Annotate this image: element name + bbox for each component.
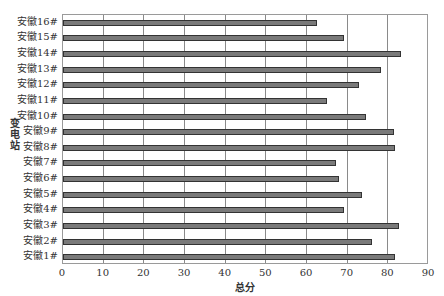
bar	[63, 192, 362, 198]
bar	[63, 129, 394, 135]
x-axis-tick-label: 80	[381, 268, 394, 278]
x-axis-tick-label: 60	[300, 268, 313, 278]
y-axis-category-label: 安徽7#	[23, 157, 58, 167]
y-axis-category-label: 安徽11#	[17, 95, 58, 105]
y-axis-category-label: 安徽8#	[23, 142, 58, 152]
y-axis-category-label: 安徽9#	[23, 126, 58, 136]
bar	[63, 114, 366, 120]
x-axis-tick-label: 0	[59, 268, 65, 278]
x-axis-tick-label: 20	[137, 268, 150, 278]
y-axis-category-label: 安徽1#	[23, 251, 58, 261]
x-axis-tick-label: 40	[218, 268, 231, 278]
x-axis-tick-label: 30	[178, 268, 191, 278]
y-axis-category-label: 安徽5#	[23, 189, 58, 199]
x-axis-tick-label: 10	[96, 268, 109, 278]
bar	[63, 160, 336, 166]
bar	[63, 20, 317, 26]
y-axis-category-label: 安徽16#	[17, 17, 58, 27]
y-axis-category-label: 安徽14#	[17, 48, 58, 58]
y-axis-category-label: 安徽6#	[23, 173, 58, 183]
bar	[63, 98, 327, 104]
y-axis-category-label: 安徽2#	[23, 236, 58, 246]
y-axis-category-label: 安徽4#	[23, 204, 58, 214]
x-axis-title: 总分	[235, 279, 255, 294]
x-axis-tick-label: 90	[422, 268, 435, 278]
bar-chart: 变电站 安徽1#安徽2#安徽3#安徽4#安徽5#安徽6#安徽7#安徽8#安徽9#…	[0, 0, 444, 296]
bar	[63, 254, 395, 260]
y-axis-category-label: 安徽3#	[23, 220, 58, 230]
bar	[63, 67, 381, 73]
x-axis-tick-label: 50	[259, 268, 272, 278]
bar	[63, 223, 399, 229]
bar	[63, 35, 344, 41]
y-axis-title: 变电站	[9, 118, 21, 151]
x-axis-tick-label: 70	[340, 268, 353, 278]
y-axis-category-label: 安徽12#	[17, 79, 58, 89]
bar	[63, 239, 372, 245]
y-axis-category-label: 安徽15#	[17, 32, 58, 42]
y-axis-category-label: 安徽10#	[17, 111, 58, 121]
plot-area	[62, 14, 428, 264]
bar	[63, 51, 401, 57]
bar	[63, 207, 344, 213]
bar	[63, 145, 395, 151]
y-axis-category-label: 安徽13#	[17, 64, 58, 74]
bar	[63, 176, 339, 182]
bar	[63, 82, 359, 88]
